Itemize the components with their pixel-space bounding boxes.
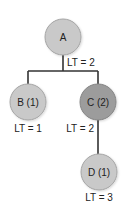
node-c-label: C (2)	[87, 97, 109, 108]
tree-diagram: A LT = 2 B (1) LT = 1 C (2) LT = 2 D (1)…	[0, 0, 128, 215]
node-c-lt-label: LT = 2	[66, 123, 94, 134]
node-a-lt-label: LT = 2	[67, 57, 95, 68]
node-d-label: D (1)	[88, 167, 110, 178]
node-a: A	[45, 19, 81, 55]
node-a-label: A	[60, 32, 67, 43]
node-d: D (1)	[81, 154, 117, 190]
node-b-lt-label: LT = 1	[14, 123, 42, 134]
node-c: C (2)	[80, 84, 116, 120]
node-b: B (1)	[10, 84, 46, 120]
node-b-label: B (1)	[17, 97, 39, 108]
node-d-lt-label: LT = 3	[85, 192, 113, 203]
